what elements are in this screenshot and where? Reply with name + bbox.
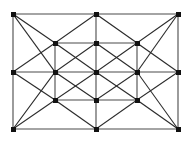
- graph-node[interactable]: [94, 12, 99, 17]
- graph-node[interactable]: [135, 98, 140, 103]
- graph-node[interactable]: [11, 127, 16, 132]
- graph-node[interactable]: [53, 98, 58, 103]
- figure-root: [0, 0, 193, 147]
- graph-node[interactable]: [176, 70, 181, 75]
- graph-diagram: [0, 0, 193, 147]
- graph-node[interactable]: [11, 70, 16, 75]
- graph-node[interactable]: [11, 12, 16, 17]
- graph-node[interactable]: [94, 41, 99, 46]
- graph-node[interactable]: [94, 70, 99, 75]
- graph-node[interactable]: [135, 41, 140, 46]
- graph-node[interactable]: [53, 70, 58, 75]
- graph-node[interactable]: [94, 98, 99, 103]
- graph-node[interactable]: [176, 127, 181, 132]
- graph-node[interactable]: [53, 41, 58, 46]
- graph-node[interactable]: [135, 70, 140, 75]
- graph-node[interactable]: [94, 127, 99, 132]
- graph-node[interactable]: [176, 12, 181, 17]
